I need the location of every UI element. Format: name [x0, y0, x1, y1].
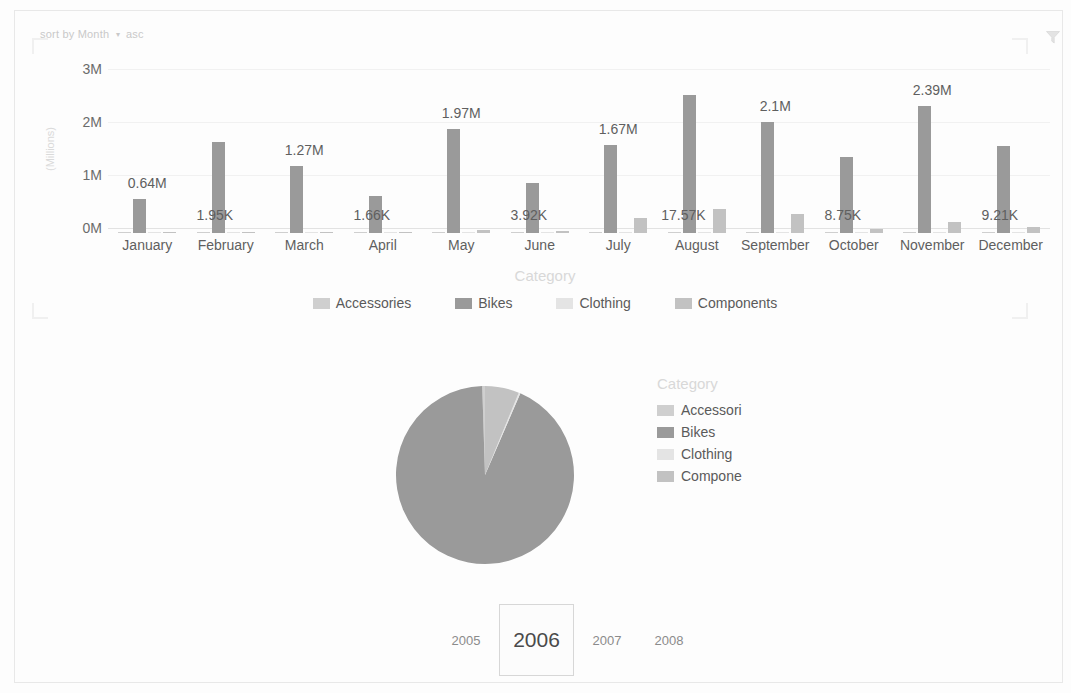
- bar-clothing[interactable]: [1012, 232, 1025, 234]
- pie-legend-items[interactable]: AccessoriBikesClothingCompone: [657, 399, 857, 487]
- x-axis-tick-label: December: [978, 237, 1043, 253]
- bar-group-bars: [422, 60, 501, 233]
- bar-clothing[interactable]: [933, 232, 946, 234]
- sort-direction-label[interactable]: asc: [126, 28, 144, 40]
- x-axis-tick-label: March: [285, 237, 324, 253]
- bar-bikes[interactable]: [918, 106, 931, 233]
- bar-accessories[interactable]: [354, 232, 367, 234]
- pie-chart-legend[interactable]: Category AccessoriBikesClothingCompone: [657, 375, 857, 487]
- bar-data-label: 1.66K: [353, 207, 390, 223]
- bar-group[interactable]: 1.66K: [344, 55, 423, 233]
- bar-components[interactable]: [634, 218, 647, 233]
- bar-components[interactable]: [1027, 227, 1040, 233]
- legend-item-components[interactable]: Components: [675, 295, 777, 311]
- bar-clothing[interactable]: [541, 232, 554, 234]
- bar-chart-visual[interactable]: (Millions) 0M1M2M3M 0.64MJanuary1.95KFeb…: [40, 55, 1050, 305]
- bar-components[interactable]: [713, 209, 726, 233]
- chevron-down-icon[interactable]: ▾: [116, 30, 120, 39]
- x-axis-tick-label: September: [741, 237, 809, 253]
- bar-accessories[interactable]: [589, 232, 602, 234]
- bar-group[interactable]: 2.39M: [893, 55, 972, 233]
- bar-clothing[interactable]: [462, 232, 475, 234]
- bar-accessories[interactable]: [903, 232, 916, 234]
- bar-accessories[interactable]: [511, 232, 524, 234]
- bar-plot-area: 0.64MJanuary1.95KFebruary1.27MMarch1.66K…: [108, 55, 1050, 233]
- sort-field-label[interactable]: Month: [78, 28, 110, 40]
- bar-data-label: 1.97M: [442, 105, 481, 121]
- bar-clothing[interactable]: [227, 232, 240, 234]
- pie-chart-visual[interactable]: Category AccessoriBikesClothingCompone: [395, 375, 855, 555]
- year-tile-2005[interactable]: 2005: [437, 619, 495, 663]
- page-frame-right: [1062, 10, 1063, 683]
- bar-clothing[interactable]: [619, 232, 632, 234]
- y-axis-ticks: 0M1M2M3M: [58, 55, 102, 233]
- bar-accessories[interactable]: [197, 232, 210, 234]
- bar-accessories[interactable]: [432, 232, 445, 234]
- bar-group[interactable]: 2.1M: [736, 55, 815, 233]
- bar-clothing[interactable]: [305, 232, 318, 234]
- legend-item-clothing[interactable]: Clothing: [556, 295, 630, 311]
- year-tile-2008[interactable]: 2008: [640, 619, 698, 663]
- bar-clothing[interactable]: [776, 232, 789, 234]
- pie-legend-item[interactable]: Bikes: [657, 421, 775, 443]
- bar-accessories[interactable]: [275, 232, 288, 234]
- bar-components[interactable]: [791, 214, 804, 233]
- legend-swatch-icon: [556, 298, 573, 309]
- bar-group[interactable]: 1.27M: [265, 55, 344, 233]
- bar-bikes[interactable]: [133, 199, 146, 233]
- bar-bikes[interactable]: [761, 122, 774, 233]
- bar-bikes[interactable]: [290, 166, 303, 233]
- bar-group[interactable]: 1.95K: [187, 55, 266, 233]
- pie-graphic[interactable]: [395, 385, 575, 565]
- bar-components[interactable]: [556, 231, 569, 233]
- bar-chart-legend[interactable]: AccessoriesBikesClothingComponents: [40, 295, 1050, 311]
- bar-accessories[interactable]: [118, 232, 131, 234]
- bar-accessories[interactable]: [668, 232, 681, 234]
- bar-components[interactable]: [948, 222, 961, 233]
- year-tile-2007[interactable]: 2007: [578, 619, 636, 663]
- bar-group[interactable]: 8.75K: [815, 55, 894, 233]
- y-axis-tick-label: 0M: [62, 220, 102, 236]
- bar-clothing[interactable]: [855, 232, 868, 234]
- bar-components[interactable]: [163, 232, 176, 233]
- bar-group[interactable]: 0.64M: [108, 55, 187, 233]
- bar-components[interactable]: [477, 230, 490, 233]
- bar-components[interactable]: [399, 232, 412, 233]
- bar-data-label: 3.92K: [510, 207, 547, 223]
- bar-group[interactable]: 17.57K: [658, 55, 737, 233]
- x-axis-tick-label: October: [829, 237, 879, 253]
- bar-accessories[interactable]: [982, 232, 995, 234]
- bar-data-label: 1.95K: [196, 207, 233, 223]
- bar-group[interactable]: 3.92K: [501, 55, 580, 233]
- bar-clothing[interactable]: [384, 232, 397, 234]
- bar-bikes[interactable]: [604, 145, 617, 234]
- bar-accessories[interactable]: [746, 232, 759, 234]
- year-slicer[interactable]: 2005200620072008: [437, 605, 698, 676]
- bar-bikes[interactable]: [447, 129, 460, 233]
- legend-swatch-icon: [313, 298, 330, 309]
- y-axis-title: (Millions): [44, 109, 56, 189]
- bar-components[interactable]: [320, 232, 333, 233]
- bar-group[interactable]: 1.97M: [422, 55, 501, 233]
- sort-control[interactable]: sort by Month ▾ asc: [40, 28, 144, 40]
- year-tile-2006[interactable]: 2006: [499, 604, 574, 676]
- bar-clothing[interactable]: [148, 232, 161, 234]
- pie-legend-item[interactable]: Accessori: [657, 399, 775, 421]
- bar-clothing[interactable]: [698, 232, 711, 234]
- bar-components[interactable]: [242, 232, 255, 234]
- legend-item-bikes[interactable]: Bikes: [455, 295, 512, 311]
- page-frame-bottom: [14, 682, 1062, 683]
- x-axis-tick-label: July: [606, 237, 631, 253]
- bar-group[interactable]: 1.67M: [579, 55, 658, 233]
- page-frame-left: [14, 10, 15, 683]
- bar-data-label: 0.64M: [128, 175, 167, 191]
- x-axis-tick-label: April: [369, 237, 397, 253]
- pie-legend-item[interactable]: Compone: [657, 465, 775, 487]
- filter-funnel-icon[interactable]: [1044, 28, 1062, 46]
- pie-legend-item[interactable]: Clothing: [657, 443, 775, 465]
- bar-components[interactable]: [870, 229, 883, 233]
- legend-item-accessories[interactable]: Accessories: [313, 295, 411, 311]
- y-axis-tick-label: 2M: [62, 114, 102, 130]
- bar-accessories[interactable]: [825, 232, 838, 234]
- bar-group[interactable]: 9.21K: [972, 55, 1051, 233]
